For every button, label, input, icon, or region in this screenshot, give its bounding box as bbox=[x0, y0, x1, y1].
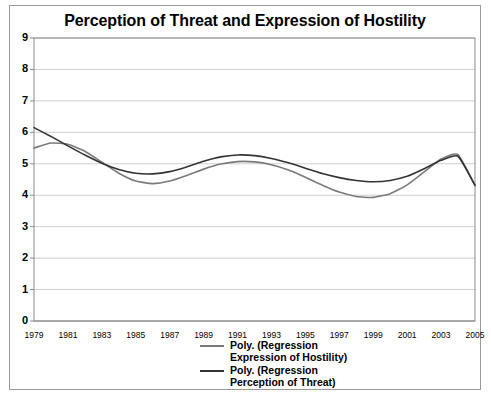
y-tick-label: 7 bbox=[10, 94, 28, 106]
legend-label: Poly. (Regression Perception of Threat) bbox=[230, 364, 370, 388]
y-tick-label: 1 bbox=[10, 283, 28, 295]
y-tick-label: 0 bbox=[10, 314, 28, 326]
legend-line-swatch bbox=[200, 370, 224, 372]
legend-item[interactable]: Poly. (Regression Expression of Hostilit… bbox=[200, 339, 390, 363]
y-tick-label: 2 bbox=[10, 251, 28, 263]
y-tick-label: 4 bbox=[10, 188, 28, 200]
legend-item[interactable]: Poly. (Regression Perception of Threat) bbox=[200, 364, 390, 388]
y-tick-label: 9 bbox=[10, 31, 28, 43]
y-tick-label: 6 bbox=[10, 125, 28, 137]
chart-container: Perception of Threat and Expression of H… bbox=[9, 5, 481, 390]
y-tick-label: 8 bbox=[10, 62, 28, 74]
x-tick-label: 2005 bbox=[455, 330, 491, 340]
y-tick-label: 3 bbox=[10, 220, 28, 232]
series-line-0 bbox=[34, 143, 475, 198]
plot-border bbox=[34, 38, 475, 321]
y-tick-label: 5 bbox=[10, 157, 28, 169]
series-line-1 bbox=[34, 128, 475, 186]
chart-legend: Poly. (Regression Expression of Hostilit… bbox=[200, 339, 390, 389]
legend-label: Poly. (Regression Expression of Hostilit… bbox=[230, 339, 370, 363]
legend-line-swatch bbox=[200, 345, 224, 347]
